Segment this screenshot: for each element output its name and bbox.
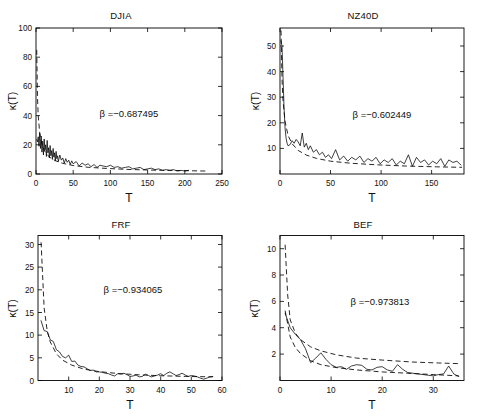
ytick-4: 10	[267, 245, 277, 254]
ytick-2: 30	[267, 93, 277, 102]
figure-canvas: DJIA 0 20 40	[0, 0, 484, 417]
ytick-1: 4	[271, 324, 276, 333]
y-ticks-nz40d	[280, 46, 464, 148]
y-ticks-frf	[38, 245, 222, 381]
xtick-3: 150	[141, 179, 155, 188]
data-line-frf	[41, 321, 213, 379]
xtick-4: 50	[187, 386, 197, 395]
y-tick-labels-bef: 2 4 6 8 10	[267, 245, 277, 359]
x-ticks-djia	[36, 28, 222, 174]
x-tick-labels-bef: 0 10 20 30	[278, 386, 439, 395]
ytick-4: 80	[23, 53, 33, 62]
ytick-5: 100	[18, 24, 32, 33]
ytick-1: 20	[23, 141, 33, 150]
xtick-2: 30	[125, 386, 135, 395]
xtick-1: 10	[327, 386, 337, 395]
plot-frf: 0 5 10 15 20 25 30	[0, 209, 242, 417]
ytick-4: 20	[25, 286, 35, 295]
xtick-3: 40	[156, 386, 166, 395]
y-axis-title-frf: κ(T)	[6, 299, 18, 318]
x-axis-title-nz40d: T	[368, 191, 376, 205]
ytick-3: 60	[23, 82, 33, 91]
beta-annotation-djia: β =−0.687495	[100, 108, 159, 119]
y-axis-title-djia: κ(T)	[6, 92, 18, 111]
plot-nz40d: 10 20 30 40 50 0 50 100 150	[242, 0, 484, 209]
series-frf	[41, 242, 213, 379]
xtick-1: 20	[95, 386, 105, 395]
panel-bef: BEF 2 4 6 8 10	[242, 209, 484, 417]
xtick-2: 100	[104, 179, 118, 188]
x-axis-title-bef: T	[368, 398, 376, 412]
series-bef	[285, 245, 459, 377]
data-line-bef	[285, 313, 459, 376]
ytick-0: 2	[271, 350, 276, 359]
x-tick-labels-nz40d: 0 50 100 150	[278, 179, 439, 188]
beta-annotation-bef: β =−0.973813	[351, 296, 410, 307]
xtick-0: 0	[34, 179, 39, 188]
xtick-2: 100	[374, 179, 388, 188]
panel-frf: FRF 0 5	[0, 209, 242, 417]
xtick-3: 30	[429, 386, 439, 395]
xtick-5: 60	[217, 386, 227, 395]
y-tick-labels-djia: 0 20 40 60 80 100	[18, 24, 32, 179]
ytick-3: 40	[267, 68, 277, 77]
y-ticks-djia	[36, 28, 222, 174]
x-ticks-frf	[69, 236, 222, 381]
x-axis-title-frf: T	[126, 398, 134, 412]
ytick-3: 8	[271, 271, 276, 280]
data-line-djia	[37, 133, 189, 171]
beta-annotation-frf: β =−0.934065	[104, 284, 163, 295]
series-nz40d	[281, 31, 462, 168]
xtick-1: 50	[69, 179, 79, 188]
ytick-2: 10	[25, 331, 35, 340]
xtick-0: 0	[278, 179, 283, 188]
y-axis-title-bef: κ(T)	[248, 299, 260, 318]
panel-djia: DJIA 0 20 40	[0, 0, 242, 209]
y-tick-labels-nz40d: 10 20 30 40 50	[267, 42, 277, 153]
ytick-0: 0	[27, 170, 32, 179]
panel-nz40d: NZ40D 10 20 30 40 50	[242, 0, 484, 209]
ytick-2: 6	[271, 297, 276, 306]
x-axis-title-djia: T	[125, 191, 133, 205]
xtick-2: 20	[378, 386, 388, 395]
x-ticks-nz40d	[280, 28, 432, 174]
axes-nz40d	[280, 28, 464, 174]
xtick-4: 200	[178, 179, 192, 188]
ytick-5: 25	[25, 263, 35, 272]
x-ticks-bef	[280, 236, 433, 381]
y-tick-labels-frf: 0 5 10 15 20 25 30	[25, 241, 35, 386]
xtick-5: 250	[215, 179, 229, 188]
ytick-2: 40	[23, 112, 33, 121]
axes-djia	[36, 28, 222, 174]
ytick-0: 0	[29, 377, 34, 386]
ytick-6: 30	[25, 241, 35, 250]
xtick-1: 50	[326, 179, 336, 188]
data-line-nz40d	[281, 41, 461, 167]
ytick-1: 5	[29, 354, 34, 363]
plot-bef: 2 4 6 8 10 0 10 20 30 T	[242, 209, 484, 417]
plot-djia: 0 20 40 60 80 100	[0, 0, 242, 209]
ytick-3: 15	[25, 309, 35, 318]
ytick-4: 50	[267, 42, 277, 51]
xtick-0: 10	[64, 386, 74, 395]
xtick-3: 150	[425, 179, 439, 188]
axes-frf	[38, 236, 222, 381]
x-tick-labels-frf: 10 20 30 40 50 60	[64, 386, 227, 395]
x-tick-labels-djia: 0 50 100 150 200 250	[34, 179, 230, 188]
fit-line-bef-lower	[285, 311, 459, 376]
axes-bef	[280, 236, 464, 381]
ytick-0: 10	[267, 144, 277, 153]
ytick-1: 20	[267, 119, 277, 128]
xtick-0: 0	[278, 386, 283, 395]
y-axis-title-nz40d: κ(T)	[249, 92, 261, 111]
beta-annotation-nz40d: β =−0.602449	[353, 109, 412, 120]
fit-line-nz40d	[281, 31, 462, 168]
